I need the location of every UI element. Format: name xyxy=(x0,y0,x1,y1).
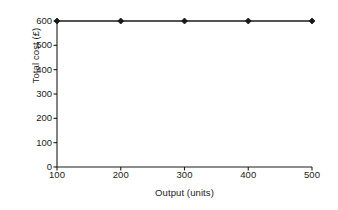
chart-container: Total cost (£) 0100200300400500600 10020… xyxy=(0,0,338,210)
axes xyxy=(54,21,313,171)
data-series xyxy=(54,18,315,24)
data-point-marker xyxy=(245,18,251,24)
plot-area xyxy=(0,0,338,210)
data-point-marker xyxy=(182,18,188,24)
data-point-marker xyxy=(118,18,124,24)
data-point-marker xyxy=(54,18,60,24)
data-point-marker xyxy=(309,18,315,24)
